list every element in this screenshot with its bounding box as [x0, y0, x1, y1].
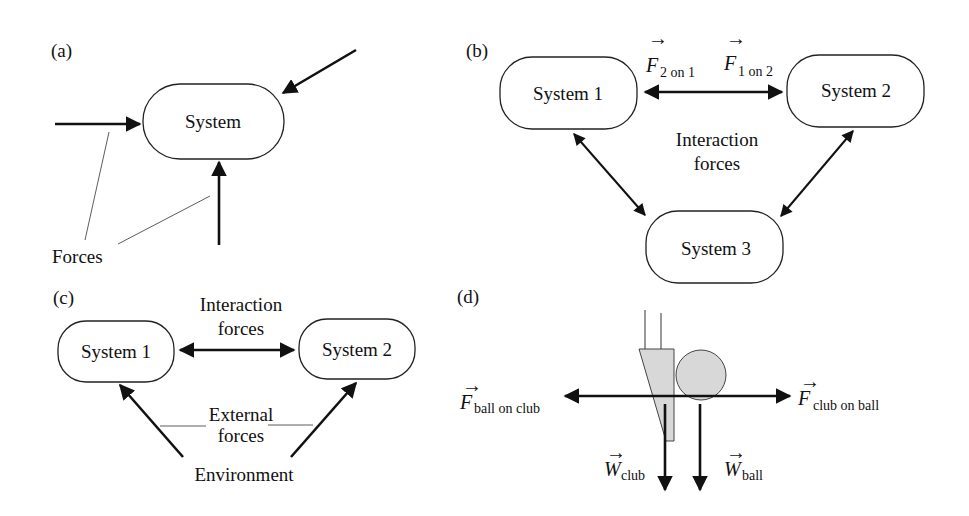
external-force-arrow-right: [291, 383, 356, 457]
system1-label: System 1: [81, 341, 151, 362]
diagram-canvas: (a) System Forces (b) System 1 System 2 …: [0, 0, 969, 516]
f-1-on-2-symbol: F: [723, 52, 737, 74]
f-2-on-1-arrow-accent: →: [648, 27, 668, 49]
w-club-subscript: club: [621, 468, 645, 483]
panel-b: (b) System 1 System 2 System 3 → F 2 on …: [466, 27, 924, 283]
panel-d-label: (d): [457, 286, 479, 308]
f-club-on-ball-symbol: F: [797, 387, 811, 409]
golf-ball: [676, 350, 726, 400]
f-club-on-ball-label: → F club on ball: [797, 370, 879, 413]
f-ball-on-club-subscript: ball on club: [474, 401, 540, 416]
force-arrow-top-right: [283, 50, 356, 93]
external-forces-line2: forces: [218, 425, 264, 446]
forces-label: Forces: [52, 246, 103, 267]
w-ball-symbol: W: [724, 458, 743, 480]
f-2-on-1-subscript: 2 on 1: [660, 65, 695, 80]
f-1-on-2-arrow-accent: →: [726, 27, 746, 49]
interaction-forces-line2: forces: [218, 318, 264, 339]
forces-leader-line-2: [118, 196, 210, 244]
panel-b-label: (b): [466, 40, 488, 62]
interaction-arrow-1-3: [574, 134, 645, 215]
external-forces-line1: External: [209, 404, 273, 425]
interaction-forces-line1: Interaction: [676, 129, 759, 150]
w-ball-label: → W ball: [724, 441, 763, 483]
f-1-on-2-label: → F 1 on 2: [723, 27, 773, 79]
panel-d: (d) → F ball on club → F club on ball → …: [457, 286, 879, 490]
interaction-forces-line1: Interaction: [200, 294, 283, 315]
interaction-arrow-2-3: [781, 131, 853, 216]
system1-label: System 1: [533, 83, 603, 104]
f-2-on-1-symbol: F: [645, 54, 659, 76]
f-ball-on-club-label: → F ball on club: [459, 374, 540, 416]
panel-c-label: (c): [53, 287, 74, 309]
forces-leader-line-1: [85, 132, 109, 240]
system2-label: System 2: [821, 80, 891, 101]
system2-label: System 2: [322, 339, 392, 360]
external-force-arrow-left: [120, 385, 183, 457]
f-club-on-ball-subscript: club on ball: [813, 398, 879, 413]
environment-label: Environment: [194, 464, 294, 485]
system-label: System: [185, 111, 241, 132]
w-club-label: → W club: [604, 441, 645, 483]
panel-a-label: (a): [51, 40, 72, 62]
interaction-forces-line2: forces: [694, 153, 740, 174]
w-ball-subscript: ball: [742, 468, 763, 483]
panel-a: (a) System Forces: [51, 40, 356, 267]
f-ball-on-club-symbol: F: [459, 391, 473, 413]
system3-label: System 3: [681, 238, 751, 259]
f-2-on-1-label: → F 2 on 1: [645, 27, 695, 80]
panel-c: (c) System 1 System 2 Interaction forces…: [53, 287, 415, 485]
f-1-on-2-subscript: 1 on 2: [738, 64, 773, 79]
